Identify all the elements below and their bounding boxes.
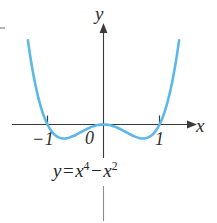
y-axis-label: y	[95, 4, 103, 23]
equation-term1-base: x	[75, 160, 83, 181]
equation-caption: y=x4−x2	[53, 161, 118, 180]
equation-operator: −	[89, 160, 103, 181]
x-tick-label-one: 1	[155, 130, 164, 148]
equation-term2-exponent: 2	[112, 160, 118, 173]
graph-figure: y x −1 0 1 y=x4−x2	[0, 0, 217, 223]
y-axis-arrowhead	[100, 23, 108, 33]
scan-artifact	[0, 27, 5, 29]
graph-canvas	[0, 0, 217, 223]
x-tick-label-neg-one: −1	[32, 130, 54, 148]
equation-term2-base: x	[103, 160, 111, 181]
equation-equals: =	[61, 160, 75, 181]
origin-label: 0	[85, 129, 94, 147]
x-axis-label: x	[196, 116, 204, 135]
